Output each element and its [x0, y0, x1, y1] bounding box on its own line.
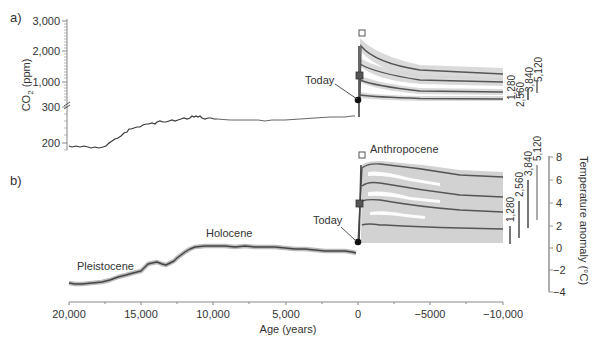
paleoclimate-figure: a) CO2 (ppm) 3,000 2,000 1,000 300 200: [0, 0, 596, 349]
svg-text:15,000: 15,000: [124, 308, 158, 320]
today-label-a: Today: [305, 74, 335, 86]
svg-text:−10,000: −10,000: [483, 308, 523, 320]
svg-text:2,000: 2,000: [32, 45, 60, 57]
svg-text:3,000: 3,000: [32, 15, 60, 27]
today-label-b: Today: [313, 214, 343, 226]
temp-y-ticks: 8 6 4 2 0 −2 −4: [549, 151, 566, 298]
temp-axis-label: Temperature anomaly (°C): [578, 156, 590, 285]
svg-text:4: 4: [556, 197, 562, 209]
svg-text:−4: −4: [553, 286, 566, 298]
open-square-marker-icon: [359, 30, 365, 36]
svg-text:2: 2: [556, 220, 562, 232]
svg-text:−2: −2: [553, 264, 566, 276]
filled-square-marker-b-icon: [356, 200, 363, 207]
svg-text:10,000: 10,000: [196, 308, 230, 320]
svg-text:−5000: −5000: [415, 308, 446, 320]
co2-emission-labels: 1,280 2,560 3,840 5,120: [506, 57, 544, 107]
svg-text:0: 0: [355, 308, 361, 320]
today-dot-b-icon: [355, 239, 362, 246]
svg-text:1,280: 1,280: [505, 197, 516, 222]
svg-text:5,000: 5,000: [272, 308, 300, 320]
open-square-marker-b-icon: [359, 152, 365, 158]
today-leader-line-b: [341, 227, 356, 241]
filled-square-marker-icon: [356, 72, 363, 79]
svg-text:20,000: 20,000: [52, 308, 86, 320]
x-tick-labels: 20,000 15,000 10,000 5,000 0 −5000 −10,0…: [52, 308, 523, 320]
anthropocene-label: Anthropocene: [370, 143, 439, 155]
svg-text:5,120: 5,120: [532, 136, 543, 161]
x-axis-label: Age (years): [260, 323, 317, 335]
panel-b-label: b): [10, 173, 22, 188]
today-leader-line: [335, 84, 357, 99]
svg-text:1,000: 1,000: [32, 76, 60, 88]
svg-text:8: 8: [556, 151, 562, 163]
co2-holocene-line: [217, 116, 355, 121]
panel-a-label: a): [10, 10, 22, 25]
svg-text:0: 0: [556, 242, 562, 254]
svg-text:200: 200: [42, 137, 60, 149]
svg-text:6: 6: [556, 174, 562, 186]
pleistocene-label: Pleistocene: [77, 260, 134, 272]
svg-text:5,120: 5,120: [533, 57, 544, 82]
co2-ice-core-line: [69, 116, 217, 148]
holocene-label: Holocene: [206, 227, 252, 239]
svg-text:300: 300: [42, 101, 60, 113]
co2-y-ticks: 3,000 2,000 1,000 300 200: [32, 15, 67, 149]
